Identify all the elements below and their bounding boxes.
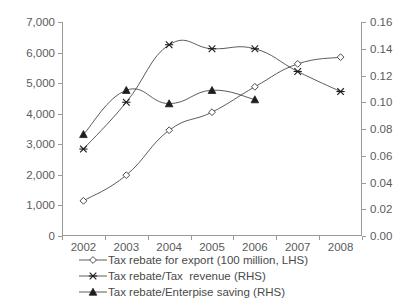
open-diamond-marker <box>90 256 97 263</box>
right-axis-tick-label: 0.10 <box>370 96 392 108</box>
star-marker <box>122 99 130 106</box>
right-axis-tick-label: 0.08 <box>370 123 392 135</box>
x-axis-tick-label: 2008 <box>328 241 354 253</box>
right-axis-tick <box>362 102 366 103</box>
left-axis-tick-label: 0 <box>49 230 55 242</box>
left-axis-tick-label: 4,000 <box>26 108 55 120</box>
star-marker <box>251 45 259 52</box>
legend-item-label: Tax rebate for export (100 million, LHS) <box>108 253 308 267</box>
star-marker <box>89 272 97 279</box>
series-line-0 <box>83 57 340 201</box>
right-axis-tick-label: 0.14 <box>370 43 392 55</box>
star-marker <box>208 45 216 52</box>
open-diamond-marker <box>337 54 344 61</box>
right-axis-tick-label: 0.16 <box>370 16 392 28</box>
right-axis-tick <box>362 209 366 210</box>
right-axis-tick <box>362 76 366 77</box>
right-axis-tick <box>362 129 366 130</box>
x-axis-tick <box>62 236 63 240</box>
x-axis-tick <box>319 236 320 240</box>
x-axis-tick <box>148 236 149 240</box>
star-marker <box>336 88 344 95</box>
left-axis-tick-label: 6,000 <box>26 47 55 59</box>
star-marker <box>165 41 173 48</box>
right-axis-tick <box>362 49 366 50</box>
plot-area: 01,0002,0003,0004,0005,0006,0007,000 0.0… <box>62 22 362 236</box>
open-diamond-marker <box>294 60 301 67</box>
right-axis-tick-label: 0.00 <box>370 230 392 242</box>
legend-item[interactable]: Tax rebate for export (100 million, LHS) <box>78 252 308 267</box>
line-chart: 01,0002,0003,0004,0005,0006,0007,000 0.0… <box>0 0 419 307</box>
left-axis-tick-label: 2,000 <box>26 169 55 181</box>
right-axis-tick-label: 0.04 <box>370 177 392 189</box>
right-axis-tick-label: 0.12 <box>370 70 392 82</box>
right-axis-tick-label: 0.02 <box>370 203 392 215</box>
x-axis-tick <box>191 236 192 240</box>
x-axis-tick <box>362 236 363 240</box>
solid-triangle-marker <box>122 86 130 93</box>
right-axis-tick-label: 0.06 <box>370 150 392 162</box>
left-axis-tick-label: 7,000 <box>26 16 55 28</box>
legend-item[interactable]: Tax rebate/Tax revenue (RHS) <box>78 268 308 283</box>
open-diamond-marker <box>251 83 258 90</box>
x-axis-tick <box>233 236 234 240</box>
solid-triangle-icon <box>78 285 108 299</box>
open-diamond-marker <box>80 197 87 204</box>
star-icon <box>78 269 108 283</box>
x-axis-tick <box>276 236 277 240</box>
left-axis-tick-label: 1,000 <box>26 199 55 211</box>
open-diamond-marker <box>209 109 216 116</box>
x-axis-tick <box>105 236 106 240</box>
legend-item[interactable]: Tax rebate/Enterpise saving (RHS) <box>78 284 308 299</box>
left-axis-tick-label: 3,000 <box>26 138 55 150</box>
legend-item-label: Tax rebate/Enterpise saving (RHS) <box>108 285 285 299</box>
left-axis-tick-label: 5,000 <box>26 77 55 89</box>
legend-item-label: Tax rebate/Tax revenue (RHS) <box>108 269 266 283</box>
right-axis-tick <box>362 183 366 184</box>
right-axis-tick <box>362 156 366 157</box>
chart-legend: Tax rebate for export (100 million, LHS)… <box>78 252 308 299</box>
series-layer <box>62 22 362 236</box>
star-marker <box>294 68 302 75</box>
star-marker <box>79 146 87 153</box>
open-diamond-icon <box>78 253 108 267</box>
right-axis-tick <box>362 22 366 23</box>
series-line-1 <box>83 40 340 149</box>
